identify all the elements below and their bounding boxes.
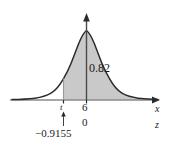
z-axis-mean-label: 0 xyxy=(82,117,88,128)
up-arrow-marker-icon xyxy=(61,112,66,117)
x-axis-mean-label: 6 xyxy=(82,102,88,113)
normal-distribution-figure: 0.82 t 6 0 −0.9155 x z xyxy=(0,0,172,147)
x-axis-name-label: x xyxy=(155,104,159,114)
shaded-area-value-label: 0.82 xyxy=(89,62,110,74)
up-arrow-icon xyxy=(83,13,90,22)
z-score-value-label: −0.9155 xyxy=(35,128,71,139)
lower-bound-tick-label: t xyxy=(60,103,63,112)
z-axis-name-label: z xyxy=(155,120,159,130)
